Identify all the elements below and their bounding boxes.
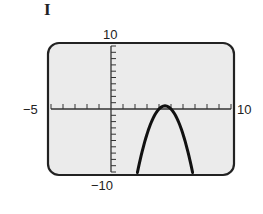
ymax-label: 10 (103, 27, 117, 42)
ymin-label: −10 (91, 178, 113, 193)
xmin-label: −5 (23, 102, 38, 117)
graphing-calculator-chart: 10 −5 10 −10 (0, 0, 263, 214)
xmax-label: 10 (237, 102, 251, 117)
